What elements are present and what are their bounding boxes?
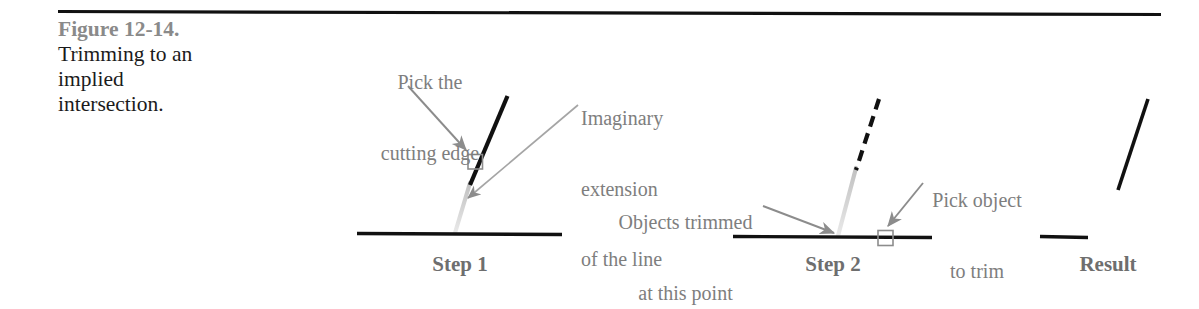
step2-dashed-line bbox=[856, 99, 879, 170]
annotation-line: Pick the bbox=[355, 71, 505, 95]
result-horizontal-line bbox=[1040, 237, 1088, 238]
step2-phantom-extension bbox=[838, 168, 856, 236]
annotation-pick-object-to-trim: Pick object to trim bbox=[917, 142, 1037, 309]
result-slanted-line bbox=[1118, 99, 1148, 190]
annotation-line: to trim bbox=[917, 260, 1037, 284]
annotation-line: Pick object bbox=[917, 189, 1037, 213]
figure-title-line-2: implied bbox=[58, 67, 268, 92]
annotation-line: cutting edge bbox=[355, 142, 505, 166]
annotation-pick-cutting-edge: Pick the cutting edge bbox=[355, 24, 505, 212]
step-label-step-2: Step 2 bbox=[773, 252, 893, 277]
annotation-line: at this point bbox=[578, 282, 793, 306]
step-label-result: Result bbox=[1048, 252, 1168, 277]
figure-title-line-1: Trimming to an bbox=[58, 42, 268, 67]
figure-title-line-3: intersection. bbox=[58, 92, 268, 117]
step1-horizontal-line bbox=[357, 234, 562, 235]
top-rule bbox=[58, 12, 1161, 15]
annotation-line: Objects trimmed bbox=[578, 211, 793, 235]
annotation-line: Imaginary bbox=[581, 107, 716, 131]
step-label-step-1: Step 1 bbox=[400, 252, 520, 277]
annotation-objects-trimmed: Objects trimmed at this point bbox=[578, 164, 793, 309]
figure-number: Figure 12-14. bbox=[58, 17, 268, 42]
figure-caption: Figure 12-14. Trimming to an implied int… bbox=[58, 17, 268, 117]
